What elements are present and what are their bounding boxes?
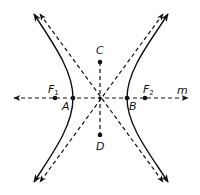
point-c <box>98 60 103 65</box>
point-d <box>98 133 103 138</box>
label-f1: F1 <box>48 83 59 97</box>
label-a: A <box>61 100 70 113</box>
point-a <box>71 96 76 101</box>
label-d: D <box>96 140 104 153</box>
label-f2: F2 <box>143 83 154 97</box>
label-b: B <box>129 100 137 113</box>
hyperbola-diagram: F1 F2 A B C D m <box>0 0 200 195</box>
point-f2 <box>143 96 148 101</box>
label-c: C <box>96 44 104 57</box>
point-center <box>98 96 101 99</box>
label-m: m <box>177 84 188 97</box>
